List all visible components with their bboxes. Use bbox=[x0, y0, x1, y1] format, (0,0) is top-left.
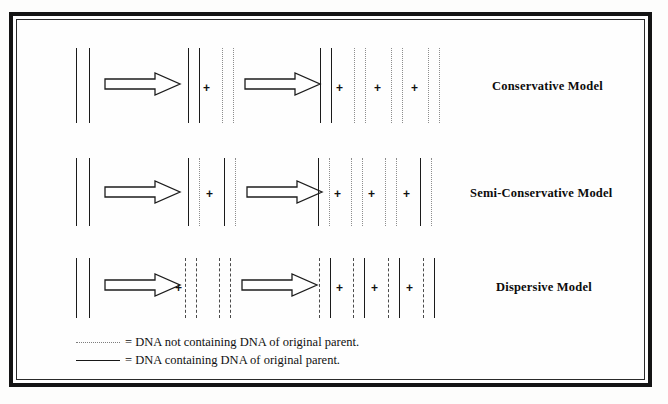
strand-mixed bbox=[423, 258, 424, 318]
plus-sign: + bbox=[403, 188, 410, 200]
strand-dotted bbox=[439, 48, 440, 123]
strand-dotted bbox=[391, 48, 392, 123]
replication-arrow bbox=[103, 178, 183, 206]
strand-mixed bbox=[388, 258, 389, 318]
strand-dotted bbox=[235, 158, 236, 226]
strand-dotted bbox=[222, 48, 223, 123]
replication-arrow bbox=[243, 70, 323, 98]
strand-dotted bbox=[385, 158, 386, 226]
plus-sign: + bbox=[368, 188, 375, 200]
strand-solid bbox=[76, 48, 77, 123]
strand-solid bbox=[330, 258, 331, 318]
duplex-gen2-d bbox=[420, 158, 432, 226]
strand-dotted bbox=[431, 158, 432, 226]
diagram-canvas: + + + bbox=[0, 0, 668, 404]
replication-arrow bbox=[245, 178, 325, 206]
duplex-gen1-b bbox=[222, 48, 234, 123]
duplex-gen1-b bbox=[224, 158, 236, 226]
strand-solid bbox=[399, 258, 400, 318]
duplex-gen2-c bbox=[385, 158, 397, 226]
strand-dotted bbox=[354, 48, 355, 123]
strand-solid bbox=[89, 158, 90, 226]
strand-dotted bbox=[402, 48, 403, 123]
model-label-semi-conservative: Semi-Conservative Model bbox=[470, 186, 612, 201]
replication-arrow bbox=[240, 271, 320, 299]
strand-solid bbox=[199, 48, 200, 123]
strand-mixed bbox=[353, 258, 354, 318]
duplex-gen2-c bbox=[391, 48, 403, 123]
strand-dotted bbox=[396, 158, 397, 226]
plus-sign: + bbox=[336, 282, 343, 294]
strand-solid bbox=[420, 158, 421, 226]
legend-label: = DNA not containing DNA of original par… bbox=[125, 336, 359, 349]
replication-arrow bbox=[103, 271, 183, 299]
duplex-gen2-d bbox=[428, 48, 440, 123]
plus-sign: + bbox=[206, 188, 213, 200]
legend-item-not-containing: = DNA not containing DNA of original par… bbox=[76, 336, 359, 349]
duplex-parent bbox=[76, 158, 90, 226]
strand-dotted bbox=[428, 48, 429, 123]
model-label-conservative: Conservative Model bbox=[492, 79, 603, 94]
strand-dotted bbox=[329, 158, 330, 226]
duplex-gen1-a bbox=[188, 48, 200, 123]
duplex-gen1-a bbox=[188, 158, 200, 226]
model-label-dispersive: Dispersive Model bbox=[496, 280, 592, 295]
duplex-gen2-b bbox=[354, 48, 366, 123]
plus-sign: + bbox=[175, 282, 182, 294]
dna-replication-figure: + + + bbox=[0, 0, 668, 404]
strand-mixed bbox=[319, 258, 320, 318]
legend-solid-swatch-icon bbox=[76, 360, 120, 361]
plus-sign: + bbox=[371, 282, 378, 294]
legend-dotted-swatch-icon bbox=[76, 342, 120, 343]
plus-sign: + bbox=[374, 82, 381, 94]
strand-solid bbox=[331, 48, 332, 123]
duplex-gen2-a bbox=[318, 158, 330, 226]
duplex-gen2-a bbox=[319, 258, 331, 318]
strand-solid bbox=[89, 48, 90, 123]
replication-arrow bbox=[103, 70, 183, 98]
strand-mixed bbox=[230, 258, 231, 318]
legend-label: = DNA containing DNA of original parent. bbox=[125, 354, 340, 367]
strand-dotted bbox=[351, 158, 352, 226]
strand-mixed bbox=[185, 258, 186, 318]
duplex-gen2-b bbox=[353, 258, 365, 318]
duplex-gen2-b bbox=[351, 158, 363, 226]
strand-solid bbox=[318, 158, 319, 226]
strand-solid bbox=[76, 158, 77, 226]
plus-sign: + bbox=[334, 188, 341, 200]
strand-solid bbox=[188, 158, 189, 226]
strand-solid bbox=[76, 258, 77, 318]
strand-dotted bbox=[233, 48, 234, 123]
plus-sign: + bbox=[203, 82, 210, 94]
duplex-gen2-a bbox=[320, 48, 332, 123]
legend-item-containing: = DNA containing DNA of original parent. bbox=[76, 354, 340, 367]
strand-dotted bbox=[199, 158, 200, 226]
strand-mixed bbox=[219, 258, 220, 318]
plus-sign: + bbox=[411, 82, 418, 94]
strand-dotted bbox=[365, 48, 366, 123]
strand-solid bbox=[320, 48, 321, 123]
strand-dotted bbox=[362, 158, 363, 226]
strand-solid bbox=[224, 158, 225, 226]
strand-solid bbox=[89, 258, 90, 318]
duplex-gen1-a bbox=[185, 258, 197, 318]
duplex-gen2-c bbox=[388, 258, 400, 318]
plus-sign: + bbox=[336, 82, 343, 94]
duplex-gen1-b bbox=[219, 258, 231, 318]
strand-mixed bbox=[196, 258, 197, 318]
plus-sign: + bbox=[406, 282, 413, 294]
strand-solid bbox=[434, 258, 435, 318]
duplex-parent bbox=[76, 48, 90, 123]
duplex-gen2-d bbox=[423, 258, 435, 318]
duplex-parent bbox=[76, 258, 90, 318]
strand-solid bbox=[364, 258, 365, 318]
strand-solid bbox=[188, 48, 189, 123]
